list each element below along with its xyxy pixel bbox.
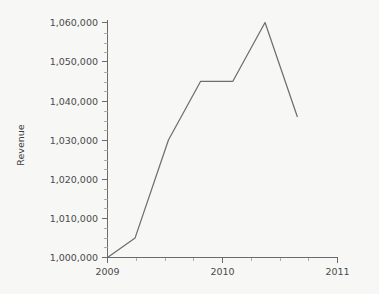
y-tick-label: 1,050,000 <box>50 56 98 67</box>
chart-canvas: Revenue <box>0 0 379 294</box>
x-tick-label: 2010 <box>210 266 234 277</box>
y-tick-label: 1,020,000 <box>50 174 98 185</box>
x-tick-label: 2009 <box>95 266 119 277</box>
revenue-line-chart: Revenue <box>0 0 379 294</box>
y-tick-label: 1,010,000 <box>50 213 98 224</box>
y-axis-title: Revenue <box>15 124 26 166</box>
y-tick-label: 1,060,000 <box>50 17 98 28</box>
chart-background <box>0 0 379 294</box>
y-tick-label: 1,040,000 <box>50 96 98 107</box>
y-tick-label: 1,000,000 <box>50 252 98 263</box>
y-tick-label: 1,030,000 <box>50 135 98 146</box>
x-tick-label: 2011 <box>325 266 349 277</box>
